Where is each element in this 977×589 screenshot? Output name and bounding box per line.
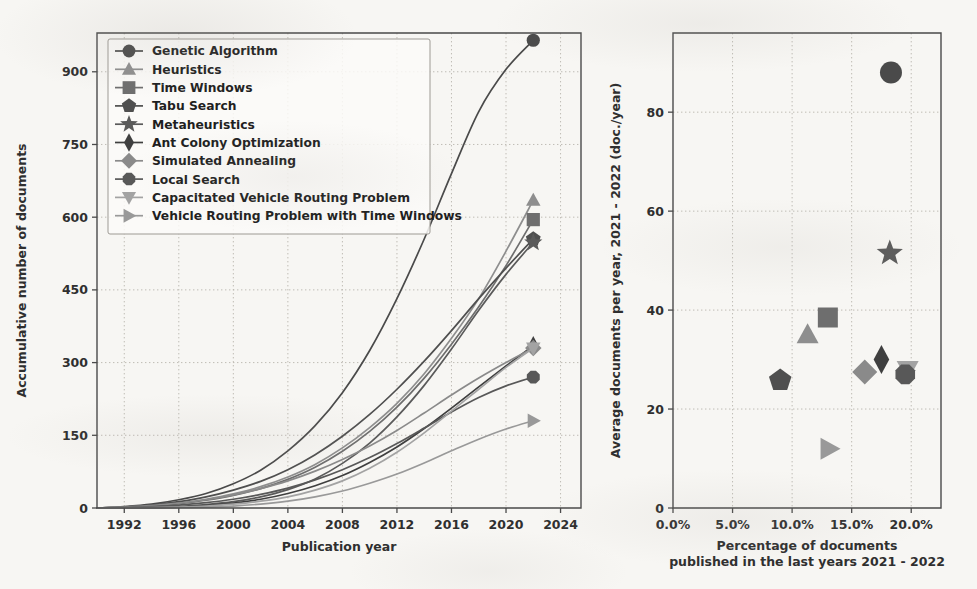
legend-label: Vehicle Routing Problem with Time Window…	[152, 209, 462, 223]
y-tick-label: 20	[647, 402, 665, 417]
right-axis-frame	[673, 33, 941, 508]
x-tick-label: 1996	[161, 517, 196, 532]
scatter-point-3	[797, 323, 819, 343]
y-tick-label: 900	[62, 64, 88, 79]
left-line-chart-panel: 199219962000200420082012201620202024Publ…	[14, 33, 581, 554]
scatter-point-2	[818, 308, 838, 328]
x-axis-title-line2: published in the last years 2021 - 2022	[669, 554, 945, 569]
figure-svg: 199219962000200420082012201620202024Publ…	[0, 0, 977, 589]
series-line-6	[97, 348, 533, 508]
series-endpoint-marker-0	[527, 34, 540, 47]
x-tick-label: 20.0%	[890, 517, 934, 532]
y-tick-label: 450	[62, 282, 88, 297]
y-tick-label: 750	[62, 137, 88, 152]
legend-marker-circle	[123, 45, 136, 58]
x-tick-label: 0.0%	[656, 517, 691, 532]
y-tick-label: 150	[62, 428, 88, 443]
y-tick-label: 0	[79, 501, 88, 516]
y-tick-label: 60	[647, 204, 665, 219]
x-tick-label: 2004	[270, 517, 305, 532]
right-x-axis: 0.0%5.0%10.0%15.0%20.0%Percentage of doc…	[656, 508, 945, 569]
y-axis-title: Accumulative number of documents	[14, 143, 29, 397]
legend: Genetic AlgorithmHeuristicsTime WindowsT…	[108, 39, 462, 234]
y-tick-label: 300	[62, 355, 88, 370]
series-endpoint-marker-1	[526, 193, 541, 206]
x-tick-label: 1992	[107, 517, 142, 532]
scatter-point-0	[880, 62, 902, 84]
legend-label: Local Search	[152, 173, 240, 187]
x-tick-label: 2020	[489, 517, 524, 532]
x-tick-label: 5.0%	[715, 517, 750, 532]
legend-label: Tabu Search	[152, 99, 237, 113]
x-tick-label: 10.0%	[770, 517, 814, 532]
series-endpoint-marker-7	[527, 371, 540, 384]
y-tick-label: 40	[647, 303, 665, 318]
axis-spines	[673, 33, 941, 508]
left-y-axis: 0150300450600750900Accumulative number o…	[14, 64, 97, 515]
scatter-point-4	[874, 345, 890, 374]
legend-item-9[interactable]: Vehicle Routing Problem with Time Window…	[115, 209, 462, 223]
y-tick-label: 80	[647, 105, 665, 120]
legend-label: Time Windows	[152, 81, 253, 95]
x-tick-label: 2000	[216, 517, 251, 532]
legend-marker-square	[123, 81, 136, 94]
scatter-point-5	[852, 359, 877, 384]
legend-label: Heuristics	[152, 63, 222, 77]
legend-label: Ant Colony Optimization	[152, 136, 321, 150]
y-tick-label: 600	[62, 210, 88, 225]
x-axis-title: Publication year	[282, 539, 398, 554]
right-gridlines	[673, 33, 941, 508]
scatter-point-7	[895, 365, 915, 385]
x-axis-title-line1: Percentage of documents	[717, 538, 898, 553]
legend-label: Metaheuristics	[152, 118, 255, 132]
left-x-axis: 199219962000200420082012201620202024Publ…	[107, 508, 578, 554]
series-line-8	[97, 348, 533, 508]
series-endpoint-marker-4	[524, 233, 542, 250]
legend-label: Simulated Annealing	[152, 154, 296, 168]
series-endpoint-marker-2	[527, 213, 540, 226]
scatter-point-9	[821, 438, 841, 460]
series-endpoint-marker-9	[528, 413, 541, 428]
series-line-7	[97, 377, 533, 508]
right-points-group	[769, 62, 919, 460]
scatter-point-1	[877, 239, 903, 264]
x-tick-label: 2016	[434, 517, 469, 532]
scatter-point-8	[769, 369, 791, 390]
x-tick-label: 2008	[325, 517, 360, 532]
right-y-axis: 020406080Average documents per year, 202…	[608, 83, 673, 516]
y-axis-title: Average documents per year, 2021 - 2022 …	[608, 83, 623, 458]
figure-container: 199219962000200420082012201620202024Publ…	[0, 0, 977, 589]
legend-label: Capacitated Vehicle Routing Problem	[152, 191, 410, 205]
right-scatter-chart-panel: 0.0%5.0%10.0%15.0%20.0%Percentage of doc…	[608, 33, 945, 569]
series-line-1	[97, 200, 533, 508]
legend-marker-octagon	[123, 173, 136, 186]
y-tick-label: 0	[655, 501, 664, 516]
x-tick-label: 2024	[543, 517, 578, 532]
x-tick-label: 15.0%	[830, 517, 874, 532]
legend-item-8[interactable]: Capacitated Vehicle Routing Problem	[115, 191, 410, 205]
legend-label: Genetic Algorithm	[152, 44, 278, 58]
x-tick-label: 2012	[380, 517, 415, 532]
